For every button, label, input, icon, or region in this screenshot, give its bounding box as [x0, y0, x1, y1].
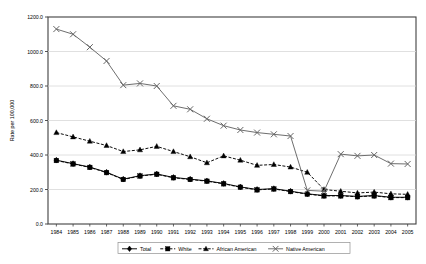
y-tick-label: 200.0: [30, 187, 43, 193]
y-tick-label: 800.0: [30, 83, 43, 89]
x-tick-label: 2001: [335, 229, 347, 235]
x-tick-label: 1997: [268, 229, 280, 235]
x-tick-label: 2004: [385, 229, 397, 235]
y-tick-label: 1000.0: [27, 49, 43, 55]
x-tick-label: 1989: [134, 229, 146, 235]
marker-square: [171, 175, 176, 180]
x-tick-label: 1998: [285, 229, 297, 235]
marker-square: [54, 158, 59, 163]
legend-label: Native American: [286, 246, 325, 252]
x-tick-label: 1993: [201, 229, 213, 235]
y-tick-label: 400.0: [30, 152, 43, 158]
legend-label: African American: [217, 246, 257, 252]
marker-square: [121, 177, 126, 182]
x-tick-label: 1991: [168, 229, 180, 235]
y-tick-label: 1200.0: [27, 14, 43, 20]
x-tick-label: 1985: [67, 229, 79, 235]
marker-square: [138, 174, 143, 179]
y-tick-label: 600.0: [30, 118, 43, 124]
legend: TotalWhiteAfrican AmericanNative America…: [118, 243, 350, 254]
y-tick-label: 0.0: [36, 221, 43, 227]
x-tick-label: 1987: [101, 229, 113, 235]
chart-canvas: 0.0200.0400.0600.0800.01000.01200.0Rate …: [0, 0, 426, 264]
marker-square: [154, 172, 159, 177]
x-tick-label: 1996: [251, 229, 263, 235]
x-tick-label: 1988: [117, 229, 129, 235]
marker-square: [205, 179, 210, 184]
x-tick-label: 1995: [235, 229, 247, 235]
y-axis-title: Rate per 100,000: [9, 100, 15, 142]
x-tick-label: 1984: [51, 229, 63, 235]
x-tick-label: 1999: [301, 229, 313, 235]
x-tick-label: 2003: [368, 229, 380, 235]
marker-square: [272, 187, 277, 192]
x-tick-label: 1990: [151, 229, 163, 235]
legend-label: White: [178, 246, 192, 252]
marker-square: [288, 189, 293, 194]
marker-square: [166, 247, 170, 251]
marker-square: [71, 162, 76, 167]
x-tick-label: 1986: [84, 229, 96, 235]
marker-square: [255, 188, 260, 193]
line-chart: 0.0200.0400.0600.0800.01000.01200.0Rate …: [0, 0, 426, 264]
marker-square: [338, 194, 343, 199]
marker-square: [104, 170, 109, 175]
marker-square: [88, 165, 93, 170]
x-tick-label: 2005: [402, 229, 414, 235]
legend-label: Total: [140, 246, 151, 252]
marker-square: [238, 185, 243, 190]
x-tick-label: 1992: [184, 229, 196, 235]
marker-square: [188, 177, 193, 182]
marker-square: [322, 194, 327, 199]
x-tick-label: 2000: [318, 229, 330, 235]
marker-square: [221, 182, 226, 187]
x-tick-label: 2002: [352, 229, 364, 235]
x-tick-label: 1994: [218, 229, 230, 235]
